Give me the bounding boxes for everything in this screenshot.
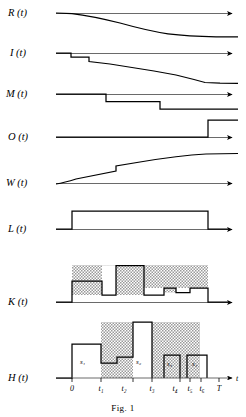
tick-label-t3: t₃ <box>149 384 154 393</box>
panel-L: L (t) <box>7 211 232 235</box>
region-label-s2: s₂ <box>136 358 142 366</box>
figure-caption: Fig. 1 <box>111 403 134 413</box>
panel-O: O (t) <box>8 120 238 143</box>
region-label-s4: s₄ <box>192 360 198 368</box>
h-shade-block-1 <box>101 322 133 378</box>
panel-label-L: L (t) <box>7 223 27 235</box>
tick-label-t5: t₅ <box>187 384 192 393</box>
panel-label-I: I (t) <box>9 47 27 59</box>
panel-label-H: H (t) <box>7 372 29 384</box>
curve-M <box>56 94 238 109</box>
h-shade-block-2 <box>152 322 187 378</box>
curve-L <box>56 211 228 229</box>
panel-label-W: W (t) <box>6 177 28 189</box>
tick-label-0: 0 <box>70 384 74 393</box>
panel-H: H (t) t s₁ s₂ s₃ s₄ <box>7 322 239 393</box>
panel-M: M (t) <box>5 88 238 109</box>
axis-variable-label: t <box>236 374 239 383</box>
panel-label-O: O (t) <box>8 131 29 143</box>
curve-W <box>56 154 238 185</box>
tick-label-T: T <box>217 384 222 393</box>
panel-label-K: K (t) <box>7 296 28 308</box>
region-label-s3: s₃ <box>167 360 173 368</box>
tick-label-t4: t₄ <box>172 384 177 393</box>
region-label-s1: s₁ <box>80 358 85 366</box>
x-axis-tick-labels: 0 t₁ t₂ t₃ t₄ t₅ t₆ T <box>70 384 222 393</box>
k-shaded-region <box>72 265 208 295</box>
h-shade-block-3 <box>187 322 200 378</box>
panel-label-R: R (t) <box>7 7 27 19</box>
figure-1-timing-diagram: R (t) I (t) M (t) O (t) W (t) L (t) K (t… <box>0 0 246 417</box>
curve-O <box>56 120 238 137</box>
panel-W: W (t) <box>6 154 238 190</box>
curve-I <box>56 53 238 83</box>
x-axis-ticks <box>72 378 219 382</box>
curve-R <box>56 13 238 37</box>
panel-label-M: M (t) <box>5 88 28 100</box>
panel-K: K (t) <box>7 265 232 308</box>
tick-label-t6: t₆ <box>199 384 204 393</box>
tick-label-t2: t₂ <box>121 384 126 393</box>
panel-I: I (t) <box>9 47 238 83</box>
panel-R: R (t) <box>7 7 238 37</box>
tick-label-t1: t₁ <box>98 384 103 393</box>
h-shaded-region <box>101 322 200 378</box>
